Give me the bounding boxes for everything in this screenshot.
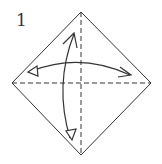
origami-diagram [0,0,162,164]
horizontal-fold-arrow [28,62,131,77]
vertical-fold-arrow [63,33,77,140]
